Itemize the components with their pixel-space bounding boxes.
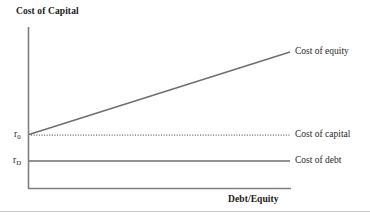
x-axis-title: Debt/Equity (228, 195, 279, 205)
chart-canvas: Cost of Capital Debt/Equity r0 rD Cost o… (0, 0, 370, 220)
series-label-cost-of-capital: Cost of capital (295, 130, 350, 140)
footer-divider (0, 211, 370, 212)
y-tick-label-r0-subscript: 0 (17, 133, 20, 140)
y-tick-label-rd: rD (13, 156, 21, 166)
cost-of-equity-line (29, 52, 290, 135)
chart-plot-area (0, 0, 370, 220)
series-label-cost-of-debt: Cost of debt (295, 156, 341, 166)
y-axis-title: Cost of Capital (16, 7, 79, 17)
y-tick-label-r0: r0 (14, 130, 21, 140)
y-tick-label-rd-subscript: D (16, 159, 21, 166)
series-label-cost-of-equity: Cost of equity (295, 47, 349, 57)
